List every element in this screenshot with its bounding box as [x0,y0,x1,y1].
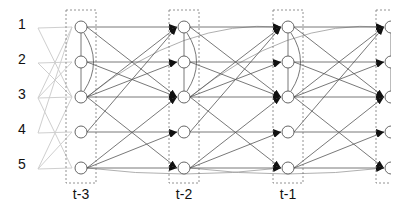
node [282,126,294,138]
node [75,56,87,68]
node [75,126,87,138]
edge [87,27,177,132]
nodes [75,21,397,174]
node [75,91,87,103]
faint-edge [38,27,72,28]
node [178,126,190,138]
edge [190,132,281,168]
row-label-4: 4 [18,121,26,137]
edge [294,27,384,132]
incoming-faint-edges [38,27,72,169]
node [178,162,190,174]
faint-edge [38,132,72,169]
node [282,21,294,33]
row-label-5: 5 [18,156,26,172]
node [282,56,294,68]
row-label-1: 1 [18,16,26,32]
skip-edges [87,26,384,174]
node [178,56,190,68]
node [178,21,190,33]
slice-label-t-3: t-3 [61,186,101,202]
faint-edge [38,97,72,98]
slice-label-t-1: t-1 [268,186,308,202]
node [282,162,294,174]
row-label-2: 2 [18,51,26,67]
node [75,162,87,174]
node [75,21,87,33]
inter-slice-edges [87,27,384,168]
slice-label-t-2: t-2 [164,186,204,202]
edge [190,27,281,132]
row-label-3: 3 [18,86,26,102]
faint-edge [38,168,72,169]
edge [294,132,384,168]
node [178,91,190,103]
faint-edge [38,27,72,133]
diagram-canvas [0,0,408,214]
edge [87,132,177,168]
node [282,91,294,103]
